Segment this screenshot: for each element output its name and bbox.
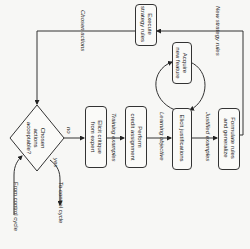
node-formulate-label: Formulate rules and generalize bbox=[222, 114, 236, 162]
label-to-control-cycle: To control cycle bbox=[57, 182, 64, 223]
label-training-examples: Training examples bbox=[110, 113, 117, 162]
node-execute-label: Execute strategy rules bbox=[139, 6, 153, 42]
perform-credit-line-2: credit assignment bbox=[129, 112, 136, 162]
perform-credit-line-1: Perform bbox=[136, 112, 143, 162]
label-yes: yes bbox=[52, 158, 59, 167]
node-elicit-justifications-label: Elicit justifications bbox=[178, 112, 185, 164]
acquire-line-1: Acquire bbox=[181, 46, 188, 80]
label-justified-examples: Justified examples bbox=[204, 112, 211, 161]
formulate-line-1: Formulate rules bbox=[229, 114, 236, 162]
execute-line-2: strategy rules bbox=[139, 6, 146, 42]
elicit-justifications-line: Elicit justifications bbox=[178, 112, 185, 164]
label-chosen-actions: Chosen actions bbox=[79, 10, 86, 51]
decision-line-1: Chosen bbox=[39, 118, 46, 158]
node-elicit-critique-label: Elicit critique from expert bbox=[89, 116, 103, 158]
elicit-critique-line-1: Elicit critique bbox=[96, 116, 103, 158]
execute-line-1: Execute bbox=[146, 6, 153, 42]
acquire-line-2: new feature bbox=[174, 46, 181, 80]
formulate-line-2: and generalize bbox=[222, 114, 229, 162]
decision-line-3: acceptable? bbox=[25, 118, 32, 158]
label-no: no bbox=[65, 127, 72, 134]
edge-chosen-actions bbox=[37, 31, 135, 104]
decision-label: Chosen actions acceptable? bbox=[25, 118, 46, 158]
edge-loop-right bbox=[190, 62, 205, 110]
node-perform-credit-label: Perform credit assignment bbox=[129, 112, 143, 162]
decision-line-2: actions bbox=[32, 118, 39, 158]
label-new-strategy-rules: New strategy rules bbox=[214, 6, 221, 56]
label-learning-objective: Learning objective bbox=[158, 112, 165, 161]
node-acquire-label: Acquire new feature bbox=[174, 46, 188, 80]
elicit-critique-line-2: from expert bbox=[89, 116, 96, 158]
label-from-control-cycle: From control cycle bbox=[12, 182, 19, 231]
